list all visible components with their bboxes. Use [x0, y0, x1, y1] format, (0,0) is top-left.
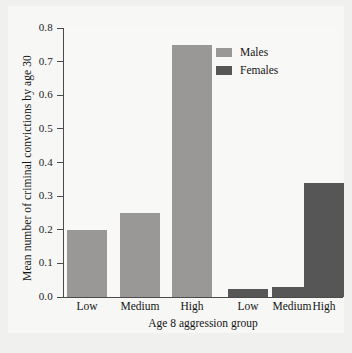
y-axis-tick-label: 0.4	[13, 156, 53, 168]
x-axis-tick-label: High	[284, 300, 352, 312]
legend-label: Males	[240, 46, 268, 58]
legend-label: Females	[240, 64, 278, 76]
y-axis-tick-mark	[57, 263, 63, 264]
y-axis-tick-label: 0.2	[13, 223, 53, 235]
y-axis-tick-mark	[57, 297, 63, 298]
x-axis-line	[63, 297, 343, 298]
y-axis-tick-mark	[57, 61, 63, 62]
y-axis-tick-mark	[57, 162, 63, 163]
y-axis-tick-label: 0.7	[13, 55, 53, 67]
y-axis-tick-label: 0.1	[13, 256, 53, 268]
chart-legend: MalesFemales	[216, 44, 278, 80]
y-axis-tick-label: 0.3	[13, 189, 53, 201]
legend-item-females: Females	[216, 62, 278, 78]
y-axis-tick-mark	[57, 128, 63, 129]
bar-males-medium	[120, 213, 160, 297]
legend-swatch-males	[216, 48, 232, 57]
y-axis-tick-mark	[57, 229, 63, 230]
bar-females-high	[304, 183, 344, 297]
y-axis-tick-mark	[57, 28, 63, 29]
legend-swatch-females	[216, 66, 232, 75]
bar-females-low	[228, 289, 268, 297]
x-axis-title: Age 8 aggression group	[63, 317, 343, 329]
y-axis-tick-mark	[57, 95, 63, 96]
y-axis-tick-label: 0.6	[13, 88, 53, 100]
y-axis-title: Mean number of criminal convictions by a…	[21, 23, 33, 313]
figure-container: 0.00.10.20.30.40.50.60.70.8 Mean number …	[0, 0, 352, 353]
legend-item-males: Males	[216, 44, 278, 60]
y-axis-tick-mark	[57, 196, 63, 197]
y-axis-tick-label: 0.5	[13, 122, 53, 134]
y-axis-tick-label: 0.8	[13, 21, 53, 33]
bar-males-low	[67, 230, 107, 297]
bars-layer	[64, 28, 342, 297]
bar-males-high	[172, 45, 212, 297]
